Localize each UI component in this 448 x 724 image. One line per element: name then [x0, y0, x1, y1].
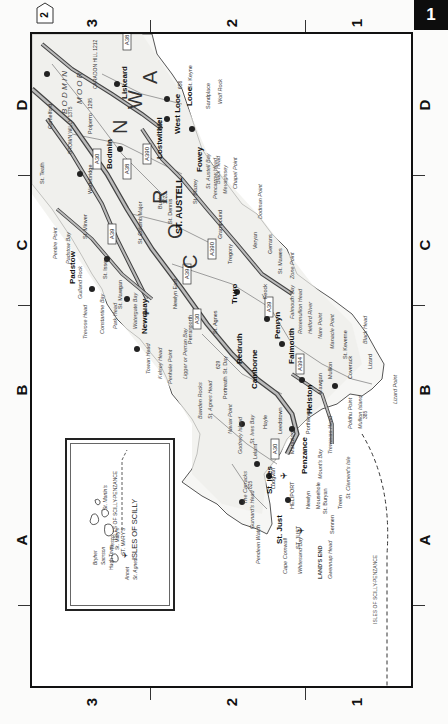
svg-text:Gerrans: Gerrans — [267, 234, 273, 254]
grid-row-label-bottom-3: 3 — [82, 692, 102, 712]
airport-icon-st-mawgan: ✈ — [142, 308, 150, 318]
svg-text:Marazion: Marazion — [289, 431, 295, 454]
svg-text:Grampound: Grampound — [217, 210, 223, 239]
svg-text:Hayle: Hayle — [262, 415, 268, 429]
svg-text:St. Minver: St. Minver — [82, 214, 88, 239]
grid-row-label-top-1: 1 — [347, 13, 367, 33]
svg-text:Feock: Feock — [262, 284, 268, 299]
svg-text:St. Agnes: St. Agnes — [212, 310, 218, 334]
svg-text:Sandplace: Sandplace — [205, 83, 211, 109]
grid-row-label-bottom-1: 1 — [347, 692, 367, 712]
isles-of-scilly-inset[interactable]: ISLES OF SCILLY-PENZANCE ISLES OF SCILLY… — [65, 438, 175, 611]
svg-text:A: A — [139, 70, 161, 84]
svg-text:Rosemullion Head: Rosemullion Head — [297, 288, 303, 334]
tick-top-2 — [305, 20, 306, 32]
road-shield-a38-ne: A38 — [124, 34, 130, 45]
label-redruth: Redruth — [235, 333, 244, 364]
label-truro: Truro — [230, 283, 239, 304]
svg-text:St. Day: St. Day — [222, 356, 228, 374]
svg-text:Zone Point: Zone Point — [289, 252, 295, 280]
svg-text:Trevose Head: Trevose Head — [82, 304, 88, 339]
svg-text:St. Keyne: St. Keyne — [187, 65, 193, 89]
ferry-route-label: ISLES OF SCILLY-PENZANCE — [372, 554, 378, 624]
label-penzance: Penzance — [300, 437, 309, 474]
inset-title: ISLES OF SCILLY — [130, 499, 139, 560]
svg-text:St. Teath: St. Teath — [39, 162, 45, 184]
svg-text:Bawden Rocks: Bawden Rocks — [197, 382, 203, 419]
svg-text:Mevagissey: Mevagissey — [222, 164, 228, 194]
svg-text:St. Ives Bay: St. Ives Bay — [249, 413, 255, 444]
svg-text:Kelsey Head: Kelsey Head — [157, 347, 163, 379]
svg-text:Pentire Point: Pentire Point — [52, 227, 58, 259]
svg-text:Bryher: Bryher — [92, 550, 98, 565]
svg-text:Godrevy Island: Godrevy Island — [237, 416, 243, 454]
svg-text:Gwennap Head: Gwennap Head — [327, 540, 333, 579]
svg-text:C: C — [179, 255, 201, 269]
svg-text:Constantine Bay: Constantine Bay — [99, 292, 105, 334]
svg-text:St. Buryan: St. Buryan — [322, 488, 328, 514]
svg-text:Pendeen Watch: Pendeen Watch — [255, 525, 261, 564]
road-shield-a394: A394 — [297, 356, 303, 371]
svg-text:St. Martin's: St. Martin's — [102, 485, 108, 510]
tick-left-3 — [18, 605, 30, 606]
grid-row-label-top-3: 3 — [82, 13, 102, 33]
svg-text:Treen: Treen — [337, 495, 343, 509]
svg-text:Mawgan: Mawgan — [317, 373, 323, 394]
map-frame[interactable]: A38 A30 A38 A390 A39 A39 A390 A30 A39 A3… — [30, 32, 413, 688]
svg-text:Mount's Bay: Mount's Bay — [317, 448, 323, 479]
svg-text:N: N — [109, 120, 131, 134]
grid-col-label-right-a: A — [415, 530, 435, 550]
svg-text:Penhale Point: Penhale Point — [167, 349, 173, 384]
svg-text:Gulland Rock: Gulland Rock — [77, 266, 83, 299]
svg-text:Towan Head: Towan Head — [145, 342, 151, 374]
svg-text:Whitesand Bay: Whitesand Bay — [297, 536, 303, 574]
svg-text:Wadebridge: Wadebridge — [87, 165, 93, 194]
svg-text:Black Head: Black Head — [362, 315, 368, 344]
svg-text:Trewavas Head: Trewavas Head — [327, 415, 333, 454]
svg-text:1023: 1023 — [162, 193, 168, 204]
tick-right-1 — [413, 175, 425, 176]
label-bodmin: Bodmin — [105, 139, 114, 169]
svg-text:Watergate Bay: Watergate Bay — [132, 291, 138, 329]
svg-text:Poldhu Point: Poldhu Point — [347, 397, 353, 429]
label-liskeard: Liskeard — [120, 66, 129, 99]
tick-left-2 — [18, 305, 30, 306]
svg-text:Newlyn East: Newlyn East — [172, 278, 178, 309]
tick-right-2 — [413, 305, 425, 306]
svg-text:Sennen: Sennen — [329, 515, 335, 534]
svg-text:Portreath: Portreath — [222, 376, 228, 399]
svg-text:St. Keverne: St. Keverne — [342, 330, 348, 359]
svg-text:St. Agnes: St. Agnes — [132, 558, 138, 580]
svg-text:Camelford: Camelford — [47, 104, 53, 129]
svg-text:Pencarrow Head: Pencarrow Head — [212, 157, 218, 199]
page-number-tab[interactable]: 1 — [414, 0, 448, 30]
tick-right-3 — [413, 605, 425, 606]
tick-bottom-2 — [305, 688, 306, 700]
svg-text:St. Issey: St. Issey — [102, 258, 108, 279]
grid-col-label-left-b: B — [12, 380, 32, 400]
svg-text:Falmouth Bay: Falmouth Bay — [289, 284, 295, 319]
road-shield-a39-penryn: A39 — [266, 301, 272, 312]
svg-text:Newlyn: Newlyn — [305, 491, 311, 509]
svg-text:Park Head: Park Head — [112, 302, 118, 329]
label-penryn: Penryn — [273, 312, 282, 339]
svg-text:Tregony: Tregony — [227, 244, 233, 264]
svg-text:Chapel Point: Chapel Point — [232, 157, 238, 189]
svg-text:Veryan: Veryan — [252, 232, 258, 249]
svg-text:Porthleven: Porthleven — [305, 408, 311, 434]
svg-text:825: 825 — [247, 480, 253, 489]
svg-text:Manacle Point: Manacle Point — [329, 314, 335, 349]
grid-row-label-bottom-2: 2 — [222, 692, 242, 712]
svg-text:Samson: Samson — [100, 546, 106, 565]
svg-text:Lizard Point: Lizard Point — [392, 374, 398, 404]
inset-ferry-route — [122, 450, 127, 530]
svg-text:Mousehole: Mousehole — [315, 482, 321, 509]
svg-text:385: 385 — [362, 410, 368, 419]
svg-text:Padstow Bay: Padstow Bay — [65, 231, 71, 264]
grid-col-label-right-b: B — [415, 380, 435, 400]
label-st-austell: ST. AUSTELL — [174, 177, 184, 234]
tick-top-1 — [150, 20, 151, 32]
road-shield-a30-bodmin: A30 — [94, 153, 100, 164]
svg-text:St. Clement's Isle: St. Clement's Isle — [345, 456, 351, 499]
svg-text:LAND'S END: LAND'S END — [317, 546, 323, 579]
